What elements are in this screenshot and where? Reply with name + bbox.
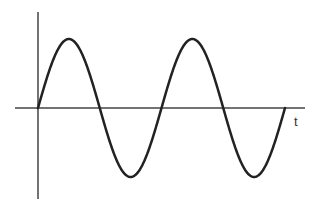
sine-wave-chart [0,0,324,202]
x-axis-label: t [294,115,298,128]
